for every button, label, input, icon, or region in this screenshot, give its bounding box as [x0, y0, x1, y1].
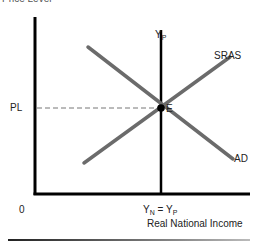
origin-label: 0: [19, 205, 25, 215]
equilibrium-label: E: [166, 104, 173, 114]
x-axis-label: Real National Income: [147, 219, 243, 229]
yn-main: Y: [143, 204, 150, 215]
yn-equals-yp-label: YN = YP: [143, 205, 177, 215]
y-axis-label: Price Level: [2, 0, 51, 4]
price-level-label: PL: [10, 103, 22, 113]
yn-equals: = Y: [155, 204, 173, 215]
sras-curve: [84, 57, 230, 163]
ad-label: AD: [234, 154, 248, 164]
bottom-divider: [8, 239, 250, 241]
chart-canvas: [0, 0, 260, 245]
equilibrium-point: [157, 104, 165, 112]
sras-label: SRAS: [214, 51, 241, 61]
yp-subscript: P: [162, 34, 167, 41]
yp-main: Y: [155, 29, 162, 40]
yp-label: YP: [155, 30, 166, 40]
yp-subscript-2: P: [173, 209, 178, 216]
yn-subscript: N: [150, 209, 155, 216]
